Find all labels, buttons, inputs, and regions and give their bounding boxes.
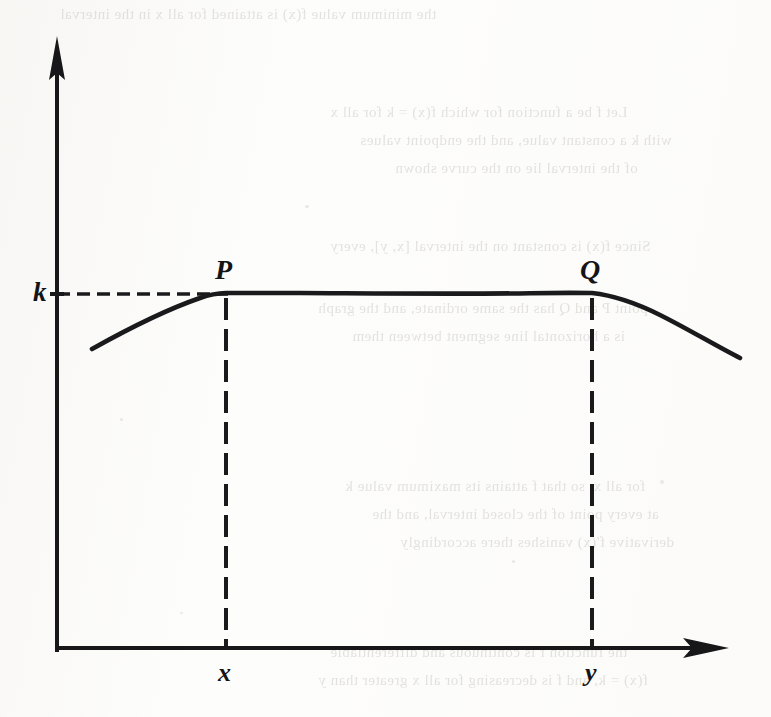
- label-x: x: [218, 660, 231, 686]
- label-point-p: P: [215, 256, 232, 284]
- label-point-q: Q: [580, 256, 600, 284]
- graph-figure-svg: [0, 0, 771, 717]
- figure-page: the minimum value f(x) is attained for a…: [0, 0, 771, 717]
- label-y: y: [585, 660, 597, 686]
- label-k: k: [33, 279, 47, 306]
- function-curve: [92, 293, 740, 358]
